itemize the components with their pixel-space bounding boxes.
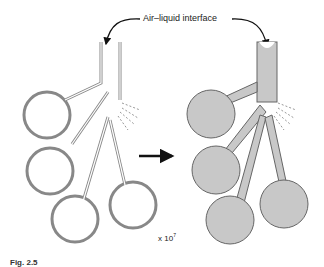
scale-exponent: 7 [173, 232, 176, 238]
left-terminal-bronchioles [118, 103, 140, 130]
liquid-filled-lung [187, 42, 308, 244]
left-pointer-arrow [106, 19, 140, 44]
figure-label: Fig. 2.5 [10, 258, 38, 267]
air-filled-lung [24, 42, 156, 242]
right-terminal-bronchioles [274, 103, 296, 130]
scale-base: x 10 [158, 234, 173, 243]
scale-label: x 107 [158, 232, 176, 243]
air-liquid-interface-label: Air–liquid interface [143, 13, 217, 23]
